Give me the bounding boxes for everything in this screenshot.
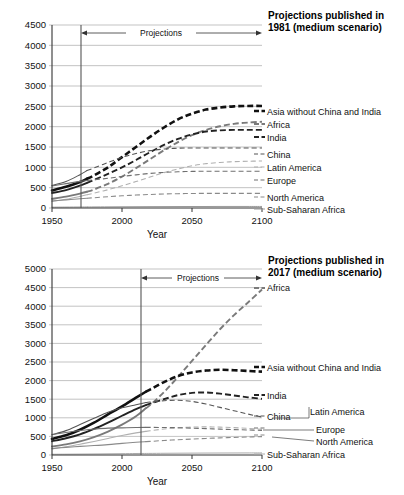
series-line-historical [52, 392, 146, 439]
series-paths-top [52, 106, 262, 207]
x-axis-title: Year [147, 476, 168, 487]
x-tick-labels-top: 1950200020502100 [41, 215, 272, 226]
y-tick-label: 0 [41, 449, 46, 460]
series-line-projection [146, 437, 262, 442]
legend-top: Asia without China and India Africa Indi… [267, 107, 381, 215]
legend-item-sub-saharan-africa[interactable]: Sub-Saharan Africa [267, 450, 345, 460]
x-tick-label: 2050 [181, 215, 202, 226]
chart-title-line1: Projections published in [268, 10, 384, 21]
legend-item-india[interactable]: India [267, 391, 287, 401]
legend-item-north-america[interactable]: North America [316, 437, 373, 447]
legend-item-india[interactable]: India [267, 133, 287, 143]
y-tick-label: 1500 [25, 394, 46, 405]
series-line-projection [146, 289, 262, 408]
x-tick-label: 2100 [251, 215, 272, 226]
legend-item-latin-america[interactable]: Latin America [267, 163, 322, 173]
series-line-projection [146, 453, 262, 454]
y-tick-label: 1500 [25, 141, 46, 152]
series-line-projection [87, 171, 262, 180]
series-line-projection [87, 122, 262, 192]
legend-item-europe[interactable]: Europe [316, 425, 345, 435]
series-line-projection [87, 206, 262, 207]
x-tick-label: 1950 [41, 462, 62, 473]
legend-item-china[interactable]: China [267, 412, 291, 422]
projections-annotation: Projections [81, 28, 262, 38]
y-tick-label: 3500 [25, 60, 46, 71]
y-tick-label: 2000 [25, 121, 46, 132]
x-tick-label: 2050 [181, 462, 202, 473]
series-paths-bottom [52, 289, 262, 454]
series-line-projection [87, 130, 262, 183]
x-tick-labels-bottom: 1950200020502100 [41, 462, 272, 473]
chart-2017: Projections 0500100015002000250030003500… [0, 247, 404, 495]
x-tick-label: 1950 [41, 215, 62, 226]
legend-item-europe[interactable]: Europe [267, 176, 296, 186]
y-tick-label: 2500 [25, 101, 46, 112]
y-tick-label: 1000 [25, 162, 46, 173]
y-tick-label: 4500 [25, 19, 46, 30]
y-tick-label: 4000 [25, 40, 46, 51]
legend-bottom: Africa Asia without China and India Indi… [267, 283, 381, 460]
figure-container: Projections 0500100015002000250030003500… [0, 0, 404, 495]
legend-item-north-america[interactable]: North America [267, 193, 324, 203]
legend-item-africa[interactable]: Africa [267, 283, 290, 293]
chart-2017-svg: Projections 0500100015002000250030003500… [0, 247, 404, 495]
y-tick-label: 500 [30, 431, 46, 442]
chart-1981: Projections 0500100015002000250030003500… [0, 0, 404, 248]
y-tick-label: 4000 [25, 301, 46, 312]
legend-item-asia[interactable]: Asia without China and India [267, 363, 381, 373]
y-tick-label: 3500 [25, 319, 46, 330]
legend-item-china[interactable]: China [267, 150, 291, 160]
y-tick-label: 3000 [25, 338, 46, 349]
projections-annotation: Projections [141, 273, 262, 283]
projections-label: Projections [177, 273, 219, 283]
legend-item-africa[interactable]: Africa [267, 120, 290, 130]
series-line-projection [87, 193, 262, 198]
series-line-projection [87, 106, 262, 179]
legend-item-sub-saharan-africa[interactable]: Sub-Saharan Africa [267, 205, 345, 215]
legend-item-asia[interactable]: Asia without China and India [267, 107, 381, 117]
y-tick-label: 500 [30, 182, 46, 193]
x-axis-title: Year [147, 229, 168, 240]
chart-title-line2: 1981 (medium scenario) [268, 22, 382, 33]
y-tick-labels-top: 050010001500200025003000350040004500 [25, 19, 46, 213]
series-line-projection [146, 400, 262, 417]
y-tick-label: 1000 [25, 412, 46, 423]
y-tick-labels-bottom: 0500100015002000250030003500400045005000 [25, 263, 46, 460]
x-tick-label: 2100 [251, 462, 272, 473]
chart-1981-svg: Projections 0500100015002000250030003500… [0, 0, 404, 248]
x-tick-label: 2000 [111, 462, 132, 473]
legend-item-latin-america[interactable]: Latin America [310, 407, 365, 417]
projections-label: Projections [140, 28, 182, 38]
y-tick-label: 0 [41, 202, 46, 213]
chart-title-line2: 2017 (medium scenario) [268, 267, 382, 278]
y-tick-label: 3000 [25, 80, 46, 91]
y-tick-label: 2500 [25, 356, 46, 367]
y-tick-label: 2000 [25, 375, 46, 386]
chart-title-line1: Projections published in [268, 255, 384, 266]
x-tick-label: 2000 [111, 215, 132, 226]
series-line-historical [52, 453, 146, 454]
y-tick-label: 4500 [25, 282, 46, 293]
y-tick-label: 5000 [25, 263, 46, 274]
